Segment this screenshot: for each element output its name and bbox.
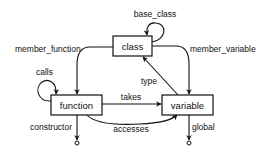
entity-relationship-diagram: class function variable base_class membe… [0, 0, 265, 163]
label-type: type [141, 76, 157, 86]
label-calls: calls [36, 67, 53, 77]
edge-accesses [87, 115, 177, 124]
label-accesses: accesses [113, 124, 148, 134]
edge-member-function [77, 47, 113, 94]
node-class[interactable]: class [113, 36, 152, 56]
label-constructor: constructor [30, 122, 72, 132]
terminal-circle-global [187, 141, 191, 145]
label-global: global [192, 122, 215, 132]
node-variable-label: variable [171, 100, 204, 111]
label-takes: takes [121, 92, 141, 102]
node-function[interactable]: function [51, 95, 102, 115]
node-variable[interactable]: variable [162, 95, 213, 115]
label-member-function: member_function [15, 44, 81, 54]
node-function-label: function [60, 100, 93, 111]
label-base-class: base_class [134, 9, 177, 19]
node-class-label: class [122, 41, 144, 52]
label-member-variable: member_variable [190, 44, 256, 54]
terminal-circle-constructor [75, 141, 79, 145]
